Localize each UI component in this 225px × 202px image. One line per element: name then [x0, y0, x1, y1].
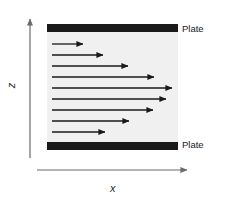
z-axis-label: z — [6, 83, 17, 89]
channel-region — [47, 24, 178, 150]
plate-label-bottom: Plate — [182, 140, 204, 150]
plate-label-top: Plate — [182, 24, 204, 34]
plate-bottom — [47, 142, 178, 150]
plate-top — [47, 24, 178, 32]
flow-diagram-figure: z x Plate Plate — [0, 0, 225, 202]
x-axis-label: x — [110, 183, 116, 194]
